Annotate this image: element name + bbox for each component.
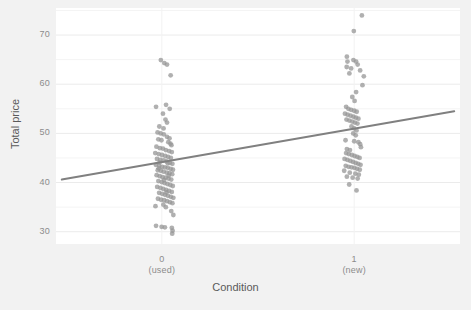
data-point xyxy=(354,109,359,114)
data-point xyxy=(161,202,166,207)
data-point xyxy=(344,54,349,59)
y-axis-tick-label: 30 xyxy=(26,226,50,236)
data-point xyxy=(351,29,356,34)
data-point xyxy=(356,116,361,121)
data-point xyxy=(171,167,176,172)
regression-line xyxy=(62,111,454,179)
x-axis-title: Condition xyxy=(0,281,471,293)
data-point xyxy=(344,65,349,70)
data-point xyxy=(168,73,173,78)
data-point xyxy=(344,174,349,179)
data-point xyxy=(161,111,166,116)
data-point xyxy=(154,104,159,109)
data-point xyxy=(171,213,176,218)
data-point xyxy=(357,156,362,161)
grid-major-lines xyxy=(56,35,460,232)
data-point xyxy=(164,102,169,107)
data-point xyxy=(361,74,366,79)
data-point xyxy=(360,83,365,88)
data-point xyxy=(352,139,357,144)
data-point xyxy=(347,170,352,175)
data-point xyxy=(169,189,174,194)
regression-line-layer xyxy=(62,111,454,179)
data-point xyxy=(347,71,352,76)
data-point xyxy=(167,106,172,111)
data-point xyxy=(354,188,359,193)
data-point xyxy=(170,161,175,166)
data-point xyxy=(165,62,170,67)
y-axis-tick-label: 50 xyxy=(26,127,50,137)
data-point xyxy=(153,204,158,209)
data-point xyxy=(350,175,355,180)
y-axis-tick-label: 60 xyxy=(26,78,50,88)
data-point xyxy=(343,138,348,143)
data-point xyxy=(359,13,364,18)
data-point xyxy=(164,190,169,195)
data-point xyxy=(166,173,171,178)
chart-root: 3040506070 0(used)1(new) Condition Total… xyxy=(0,0,471,310)
data-point xyxy=(171,195,176,200)
data-point xyxy=(170,231,175,236)
y-axis-tick-label: 40 xyxy=(26,177,50,187)
data-point xyxy=(342,168,347,173)
y-axis-title: Total price xyxy=(9,79,21,169)
data-point xyxy=(165,120,170,125)
data-point xyxy=(156,166,161,171)
data-point xyxy=(345,59,350,64)
data-point xyxy=(358,162,363,167)
y-axis-tick-label: 70 xyxy=(26,29,50,39)
data-point xyxy=(349,66,354,71)
x-axis-tick-sublabel: (new) xyxy=(319,265,389,275)
data-point xyxy=(358,68,363,73)
x-axis-tick-label: 0 xyxy=(127,254,197,264)
data-point xyxy=(170,184,175,189)
data-points-layer xyxy=(153,13,366,236)
data-point xyxy=(161,126,166,131)
data-point xyxy=(157,124,162,129)
x-axis-tick-sublabel: (used) xyxy=(127,265,197,275)
data-point xyxy=(355,62,360,67)
data-point xyxy=(352,99,357,104)
data-point xyxy=(347,182,352,187)
x-axis-tick-label: 1 xyxy=(319,254,389,264)
data-point xyxy=(162,178,167,183)
data-point xyxy=(154,223,159,228)
scatter-plot-svg xyxy=(56,8,460,244)
data-point xyxy=(357,167,362,172)
data-point xyxy=(162,225,167,230)
grid-minor-lines xyxy=(56,10,460,207)
data-point xyxy=(353,133,358,138)
data-point xyxy=(168,141,173,146)
plot-panel xyxy=(56,8,460,244)
grid-vertical-lines xyxy=(162,8,354,244)
data-point xyxy=(159,138,164,143)
data-point xyxy=(354,90,359,95)
data-point xyxy=(170,201,175,206)
data-point xyxy=(169,150,174,155)
data-point xyxy=(359,145,364,150)
data-point xyxy=(355,121,360,126)
data-point xyxy=(355,176,360,181)
